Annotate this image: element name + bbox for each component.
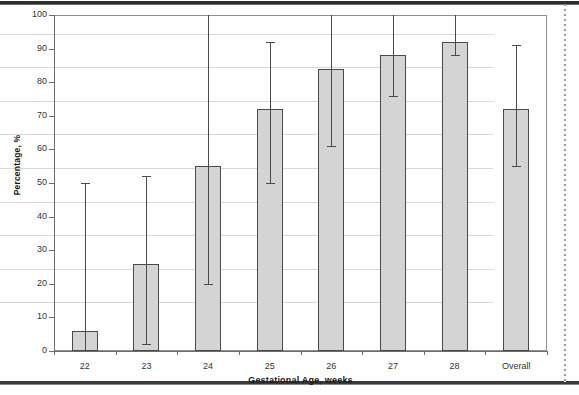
- y-tick-label: 70: [17, 111, 47, 120]
- error-bar-cap-upper: [142, 176, 151, 177]
- error-bar-cap-lower: [451, 55, 460, 56]
- bar: [442, 42, 468, 351]
- y-axis-title: Percentage, %: [12, 120, 22, 210]
- y-tick-label: 10: [17, 312, 47, 321]
- x-axis-title: Gestational Age, weeks: [54, 375, 547, 385]
- gridline: [0, 235, 493, 236]
- x-tick-label: 28: [420, 361, 490, 371]
- plot-frame: [54, 15, 547, 351]
- x-tick-mark: [239, 351, 240, 355]
- error-bar-cap-lower: [142, 344, 151, 345]
- error-bar-cap-lower: [389, 96, 398, 97]
- error-bar-line: [85, 183, 86, 351]
- page-top-edge-artifact: [0, 0, 579, 5]
- x-tick-label: Overall: [481, 361, 551, 371]
- error-bar-line: [331, 15, 332, 146]
- x-tick-label: 25: [235, 361, 305, 371]
- error-bar-line: [455, 15, 456, 55]
- y-tick-label: 90: [17, 44, 47, 53]
- x-tick-label: 23: [111, 361, 181, 371]
- gridline: [0, 134, 493, 135]
- error-bar-line: [208, 15, 209, 284]
- error-bar-cap-upper: [81, 183, 90, 184]
- bar: [380, 55, 406, 351]
- gridline: [0, 67, 493, 68]
- x-tick-label: 22: [50, 361, 120, 371]
- x-tick-mark: [301, 351, 302, 355]
- error-bar-cap-upper: [512, 45, 521, 46]
- x-tick-label: 24: [173, 361, 243, 371]
- x-tick-mark: [362, 351, 363, 355]
- error-bar-line: [393, 15, 394, 96]
- y-tick-label: 0: [17, 346, 47, 355]
- x-tick-mark: [177, 351, 178, 355]
- error-bar-line: [270, 42, 271, 183]
- error-bar-cap-lower: [204, 284, 213, 285]
- page-right-edge-artifact: [564, 4, 566, 382]
- x-tick-mark: [116, 351, 117, 355]
- error-bar-cap-lower: [327, 146, 336, 147]
- x-tick-mark: [424, 351, 425, 355]
- y-tick-label: 100: [17, 10, 47, 19]
- gridline: [0, 34, 493, 35]
- error-bar-line: [516, 45, 517, 166]
- error-bar-cap-lower: [266, 183, 275, 184]
- error-bar-cap-lower: [512, 166, 521, 167]
- y-tick-label: 80: [17, 77, 47, 86]
- gridline: [0, 302, 493, 303]
- x-tick-label: 27: [358, 361, 428, 371]
- x-tick-mark: [485, 351, 486, 355]
- x-tick-mark: [54, 351, 55, 355]
- error-bar-cap-upper: [266, 42, 275, 43]
- x-tick-mark: [547, 351, 548, 355]
- x-tick-label: 26: [296, 361, 366, 371]
- gridline: [0, 202, 493, 203]
- y-tick-label: 20: [17, 279, 47, 288]
- gridline: [0, 269, 493, 270]
- y-tick-label: 30: [17, 245, 47, 254]
- y-tick-label: 40: [17, 212, 47, 221]
- gridline: [0, 168, 493, 169]
- gridline: [0, 101, 493, 102]
- y-axis-line: [54, 15, 55, 352]
- error-bar-line: [146, 176, 147, 344]
